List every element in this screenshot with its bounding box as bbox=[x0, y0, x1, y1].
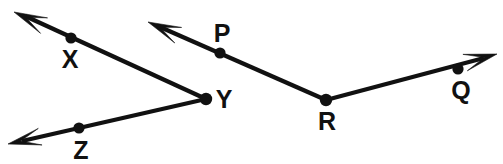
point-label-z: Z bbox=[73, 136, 88, 164]
geometry-diagram-canvas: X Z P Q Y R bbox=[0, 0, 503, 164]
point-label-x: X bbox=[62, 45, 79, 73]
point-dot-q bbox=[452, 63, 463, 74]
point-label-q: Q bbox=[451, 76, 470, 104]
ray-y-to-x-line bbox=[25, 16, 206, 99]
point-dot-z bbox=[73, 122, 84, 133]
vertex-label-r: R bbox=[318, 107, 336, 135]
vertex-dot-y bbox=[200, 93, 212, 105]
vertex-dot-r bbox=[320, 94, 332, 106]
point-dot-p bbox=[214, 47, 225, 58]
vertex-label-y: Y bbox=[216, 85, 233, 113]
point-label-p: P bbox=[214, 19, 231, 47]
rays-group bbox=[22, 16, 484, 141]
labels-group: X Z P Q Y R bbox=[62, 19, 471, 164]
diagram-svg: X Z P Q Y R bbox=[0, 0, 503, 164]
point-dot-x bbox=[65, 32, 76, 43]
ray-y-to-z-line bbox=[22, 99, 206, 141]
